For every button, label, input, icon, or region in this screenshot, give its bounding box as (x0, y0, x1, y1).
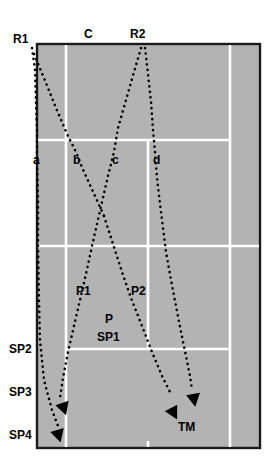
label-sp1: SP1 (97, 331, 120, 343)
label-c-point: c (112, 154, 119, 166)
label-a: a (33, 154, 40, 166)
label-r1: R1 (13, 33, 28, 45)
label-sp2: SP2 (9, 343, 32, 355)
label-sp4: SP4 (9, 429, 32, 441)
label-c: C (84, 28, 93, 40)
label-p: P (105, 313, 113, 325)
label-p1: P1 (76, 285, 91, 297)
label-p2: P2 (131, 285, 146, 297)
court-graphic (0, 0, 274, 469)
label-tm: TM (178, 421, 195, 433)
tennis-court-diagram: R1 C R2 a b c d P1 P2 P SP1 TM SP2 SP3 S… (0, 0, 274, 469)
label-r2: R2 (130, 28, 145, 40)
label-sp3: SP3 (9, 386, 32, 398)
label-d: d (153, 154, 160, 166)
label-b: b (73, 154, 80, 166)
